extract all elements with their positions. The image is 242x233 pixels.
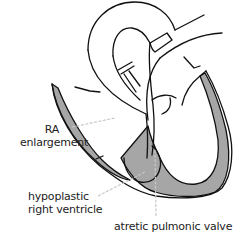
heart-diagram: RA enlargement hypoplastic right ventric… <box>0 0 242 233</box>
label-line: atretic pulmonic valve <box>114 220 232 233</box>
label-line: right ventricle <box>28 203 102 216</box>
label-line: hypoplastic <box>28 190 102 203</box>
label-atretic-pulmonic-valve: atretic pulmonic valve <box>114 220 232 233</box>
label-line: RA <box>20 123 84 136</box>
label-line: enlargement <box>20 136 84 149</box>
label-ra-enlargement: RA enlargement <box>20 123 84 149</box>
label-hypoplastic-right-ventricle: hypoplastic right ventricle <box>28 190 102 216</box>
